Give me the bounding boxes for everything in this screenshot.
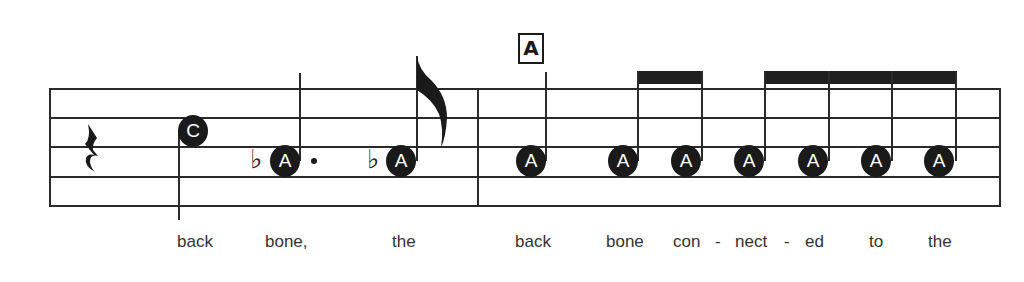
beam [637, 71, 703, 84]
start-barline [49, 88, 51, 207]
note-head-a: A [734, 145, 764, 177]
note-head-a: A [671, 145, 701, 177]
lyric-syllable: the [928, 232, 952, 252]
note-head-a: A [516, 145, 546, 177]
staff-line-4 [49, 176, 1001, 178]
lyric-syllable: back [177, 232, 213, 252]
note-stem [828, 71, 830, 161]
note-stem [545, 72, 547, 161]
note-head-a: A [608, 145, 638, 177]
note-head-a: A [386, 145, 416, 177]
augmentation-dot [311, 158, 317, 164]
lyric-syllable: con [673, 232, 700, 252]
lyric-syllable: the [392, 232, 416, 252]
end-barline [999, 88, 1001, 207]
note-stem [299, 73, 301, 161]
note-stem [637, 71, 639, 161]
note-stem [955, 71, 957, 161]
lyric-hyphen: - [784, 232, 790, 252]
lyric-syllable: to [869, 232, 883, 252]
note-head-a: A [924, 145, 954, 177]
rehearsal-mark: A [518, 33, 544, 64]
note-stem [178, 130, 180, 220]
eighth-flag-icon [417, 56, 449, 152]
note-head-a: A [861, 145, 891, 177]
lyric-syllable: bone, [265, 232, 308, 252]
staff-line-1 [49, 88, 1001, 90]
flat-icon: ♭ [250, 146, 262, 172]
lyric-syllable: ed [805, 232, 824, 252]
lyric-syllable: back [515, 232, 551, 252]
note-head-a: A [798, 145, 828, 177]
note-stem [764, 71, 766, 161]
middle-barline [477, 88, 479, 207]
quarter-rest-icon [82, 122, 102, 174]
beam [764, 71, 957, 84]
lyric-syllable: bone [606, 232, 644, 252]
flat-icon: ♭ [367, 146, 379, 172]
note-head-c: C [178, 115, 208, 147]
lyric-syllable: nect [735, 232, 767, 252]
note-stem [701, 71, 703, 161]
note-stem [891, 71, 893, 161]
lyric-hyphen: - [715, 232, 721, 252]
staff-line-5 [49, 205, 1001, 207]
note-head-a: A [270, 145, 300, 177]
